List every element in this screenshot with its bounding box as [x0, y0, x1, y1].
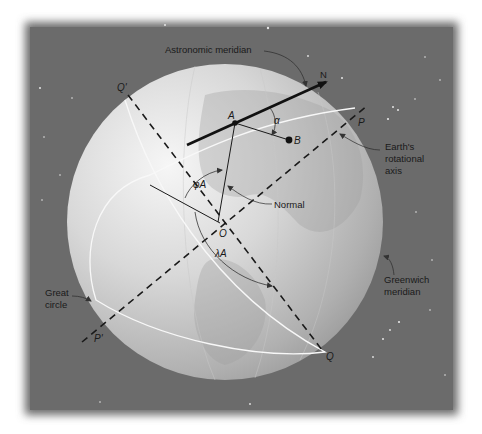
lambda-a-label: λA [214, 248, 227, 259]
astronomic-meridian-label: Astronomic meridian [165, 44, 252, 55]
normal-label: Normal [274, 199, 305, 210]
astronomic-coordinates-diagram: Astronomic meridian N Q' P A B α Earth's… [0, 0, 482, 434]
greenwich-label-1: Greenwich [384, 274, 429, 285]
great-circle-label-1: Great [45, 287, 69, 298]
q-label: Q [326, 351, 334, 362]
earths-axis-label-2: rotational [385, 153, 424, 164]
greenwich-label-2: meridian [384, 286, 420, 297]
p-prime-label: P' [94, 333, 104, 344]
point-b-marker [286, 137, 293, 144]
earths-axis-label-1: Earth's [385, 141, 415, 152]
point-a-marker [232, 120, 238, 126]
q-prime-label: Q' [117, 82, 128, 93]
phi-a-label: φA [193, 179, 207, 190]
origin-label: O [219, 228, 227, 239]
point-a-label: A [227, 110, 235, 121]
alpha-label: α [274, 115, 280, 126]
p-label: P [358, 117, 365, 128]
point-b-label: B [294, 135, 301, 146]
earths-axis-label-3: axis [385, 165, 402, 176]
north-label: N [320, 69, 327, 80]
great-circle-label-2: circle [45, 299, 67, 310]
